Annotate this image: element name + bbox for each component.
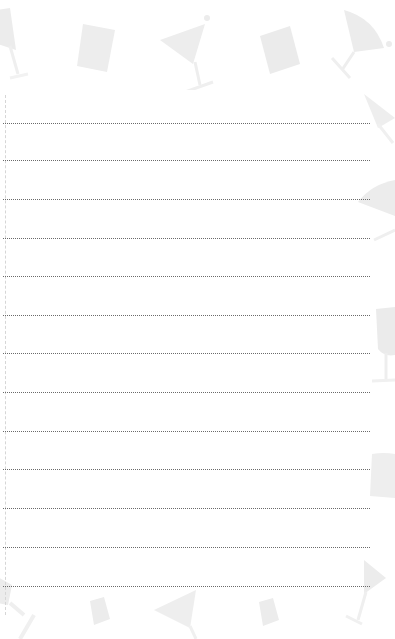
martini-glass-icon (338, 558, 395, 628)
writing-line[interactable] (3, 469, 370, 470)
writing-line[interactable] (3, 123, 370, 124)
martini-glass-icon (0, 4, 36, 84)
writing-line[interactable] (3, 160, 370, 161)
notepad-page (0, 0, 395, 639)
tumbler-glass-icon (88, 597, 110, 625)
martini-glass-icon (314, 8, 394, 83)
martini-glass-icon (348, 88, 395, 148)
martini-glass-icon (352, 180, 395, 250)
writing-line[interactable] (3, 238, 370, 239)
writing-line[interactable] (3, 392, 370, 393)
writing-line[interactable] (3, 315, 370, 316)
martini-glass-icon (155, 10, 225, 90)
writing-line[interactable] (3, 547, 370, 548)
tumbler-glass-icon (257, 598, 279, 626)
wine-glass-icon (368, 305, 395, 385)
martini-glass-icon (0, 575, 43, 639)
writing-line[interactable] (3, 276, 370, 277)
martini-glass-icon (150, 590, 200, 639)
writing-line[interactable] (3, 353, 370, 354)
writing-line[interactable] (3, 199, 370, 200)
tumbler-glass-icon (364, 452, 395, 500)
margin-line (5, 95, 6, 615)
writing-line[interactable] (3, 586, 370, 587)
writing-line[interactable] (3, 431, 370, 432)
tumbler-glass-icon (258, 24, 303, 76)
tumbler-glass-icon (75, 22, 120, 77)
writing-line[interactable] (3, 508, 370, 509)
